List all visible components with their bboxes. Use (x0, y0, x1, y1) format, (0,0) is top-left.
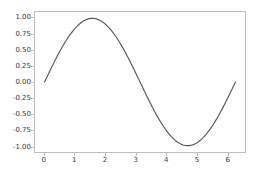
y-axis-tick-labels: 1.000.750.500.250.00-0.25-0.50-0.75-1.00 (0, 0, 31, 178)
x-tick-label: 3 (124, 156, 148, 164)
x-axis-tick-labels: 0123456 (0, 156, 253, 170)
y-tick-label: -0.75 (13, 125, 31, 135)
matplotlib-figure: 1.000.750.500.250.00-0.25-0.50-0.75-1.00… (0, 0, 253, 178)
x-tick-label: 4 (154, 156, 178, 164)
y-tick-label: 1.00 (15, 12, 31, 22)
x-tick-label: 1 (62, 156, 86, 164)
x-tick-label: 2 (93, 156, 117, 164)
x-tick-label: 5 (185, 156, 209, 164)
y-tick-label: 0.00 (15, 77, 31, 87)
plot-axes-area (34, 11, 246, 153)
y-tick-label: -1.00 (13, 142, 31, 152)
x-tick-label: 0 (32, 156, 56, 164)
y-tick-label: -0.25 (13, 93, 31, 103)
y-tick-label: 0.50 (15, 45, 31, 55)
x-tick-label: 6 (216, 156, 240, 164)
y-tick-label: 0.75 (15, 29, 31, 39)
sine-curve-line (45, 18, 236, 145)
y-tick-label: 0.25 (15, 61, 31, 71)
y-tick-label: -0.50 (13, 109, 31, 119)
sine-curve-svg (35, 12, 245, 152)
